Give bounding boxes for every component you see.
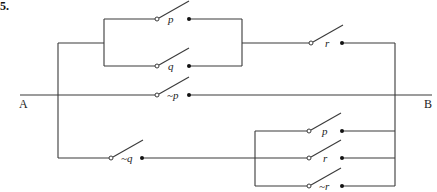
switch-label: ~p: [167, 89, 179, 101]
switch-bottom-not-q: ~q: [109, 140, 144, 164]
switch-top-r: r: [309, 25, 344, 49]
switch-label: r: [325, 37, 330, 49]
bottom-branch: [58, 131, 395, 186]
switch-bottom-not-r: ~r: [307, 168, 344, 192]
switch-label: r: [323, 152, 328, 164]
switching-circuit-diagram: 5. A B p: [0, 0, 437, 192]
switch-bottom-r: r: [307, 140, 344, 164]
switch-label: q: [168, 60, 174, 72]
problem-number: 5.: [0, 0, 9, 13]
top-parallel-block: [104, 19, 395, 66]
terminal-a-label: A: [19, 97, 28, 111]
switch-mid-not-p: ~p: [155, 77, 191, 101]
switch-top-p: p: [155, 1, 191, 25]
switch-label: ~r: [319, 180, 330, 192]
switch-bottom-p: p: [307, 113, 344, 137]
switch-label: ~q: [121, 152, 133, 164]
switch-label: p: [321, 125, 328, 137]
switch-top-q: q: [155, 48, 191, 72]
switch-label: p: [167, 13, 174, 25]
terminal-b-label: B: [424, 97, 432, 111]
